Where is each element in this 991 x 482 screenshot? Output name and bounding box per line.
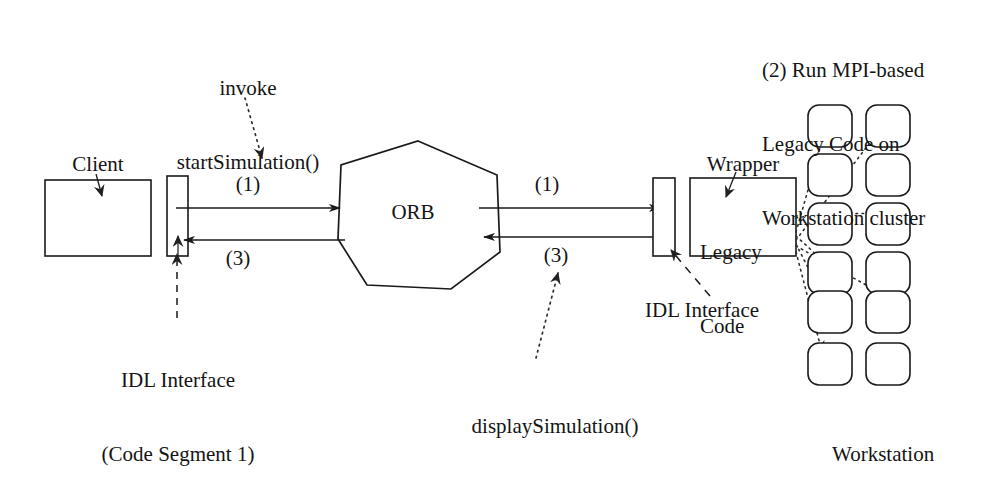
invoke-annotation-line2: startSimulation() (168, 150, 328, 175)
callback-annotation: displaySimulation() (Callback to display… (390, 364, 720, 482)
step2-annotation-line1: (2) Run MPI-based (762, 58, 988, 83)
flow-label-3-left: (3) (216, 246, 260, 271)
idl-interface-right-bar (653, 178, 675, 256)
flow-arrow-3-left (178, 236, 345, 256)
idl-interface-left-label: IDL Interface (Code Segment 1) (67, 318, 289, 482)
client-box (45, 180, 151, 256)
workstation-cluster-label-line1: Workstation (832, 442, 991, 467)
callback-annotation-line1: displaySimulation() (390, 414, 720, 439)
legacy-code-label-line1: Legacy (700, 240, 796, 265)
workstation-node (808, 343, 852, 385)
workstation-cluster-label: Workstation Cluster (832, 392, 991, 482)
flow-label-1-right: (1) (525, 172, 569, 197)
workstation-node (866, 291, 910, 333)
callback-leader-icon (536, 273, 558, 358)
idl-interface-left-label-line2: (Code Segment 1) (67, 442, 289, 467)
flow-label-3-right: (3) (534, 243, 578, 268)
client-label: Client (38, 152, 158, 177)
idl-interface-left-label-line1: IDL Interface (67, 368, 289, 393)
diagram-canvas: invoke startSimulation() (2) Run MPI-bas… (0, 0, 991, 482)
orb-label: ORB (378, 200, 448, 225)
invoke-annotation-line1: invoke (168, 76, 328, 101)
workstation-node (866, 343, 910, 385)
flow-label-1-left: (1) (226, 172, 270, 197)
legacy-code-label: Legacy Code (700, 190, 796, 388)
idl-interface-right-label: IDL Interface (645, 298, 825, 323)
wrapper-label: Wrapper (688, 152, 798, 177)
